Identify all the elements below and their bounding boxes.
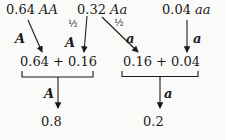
label-A-from-Aa: A bbox=[65, 36, 75, 49]
result-A-frequency: 0.8 bbox=[41, 115, 62, 129]
genotype-Aa-frequency: 0.32 bbox=[77, 2, 106, 17]
label-half-left: ½ bbox=[68, 19, 78, 29]
arrow-Aa-to-A-sum bbox=[84, 16, 87, 52]
genotype-AA-frequency: 0.64 bbox=[6, 2, 35, 17]
genotype-AA: 0.64 AA bbox=[6, 3, 58, 17]
label-A-from-AA: A bbox=[15, 32, 25, 45]
genotype-AA-label: AA bbox=[39, 2, 58, 17]
label-a-total: a bbox=[164, 87, 172, 100]
bracket-a-sum bbox=[122, 71, 198, 77]
genotype-aa-frequency: 0.04 bbox=[162, 2, 191, 17]
arrow-AA-to-A-sum bbox=[28, 20, 42, 52]
label-a-from-aa: a bbox=[193, 32, 201, 45]
arrows-layer bbox=[0, 0, 225, 140]
result-a-frequency: 0.2 bbox=[143, 115, 164, 129]
genotype-aa: 0.04 aa bbox=[162, 3, 211, 17]
label-half-right: ½ bbox=[114, 18, 124, 28]
bracket-A-sum bbox=[22, 71, 93, 77]
sum-A: 0.64 + 0.16 bbox=[20, 55, 97, 69]
label-a-from-Aa: a bbox=[126, 32, 134, 45]
genotype-Aa: 0.32 Aa bbox=[77, 3, 127, 17]
genotype-aa-label: aa bbox=[195, 2, 211, 17]
genotype-Aa-label: Aa bbox=[110, 2, 127, 17]
sum-a: 0.16 + 0.04 bbox=[123, 55, 200, 69]
label-A-total: A bbox=[44, 87, 54, 100]
allele-frequency-diagram: 0.64 AA 0.32 Aa 0.04 aa A ½ A ½ a a 0.64… bbox=[0, 0, 225, 140]
